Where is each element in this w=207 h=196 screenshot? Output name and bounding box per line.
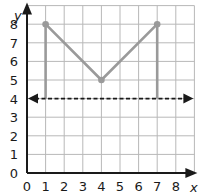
x-axis-label: x — [189, 180, 198, 195]
y-axis-label: y — [13, 8, 22, 23]
y-tick-label: 4 — [10, 92, 18, 107]
axes — [22, 3, 197, 178]
y-tick-label: 5 — [10, 73, 18, 88]
y-tick-label: 6 — [10, 54, 18, 69]
y-tick-label: 1 — [10, 147, 18, 162]
y-tick-label: 7 — [10, 36, 18, 51]
arrow-right-icon — [183, 94, 193, 104]
tick-labels: 012345678012345678 — [10, 17, 180, 194]
y-tick-label: 0 — [10, 166, 18, 181]
x-tick-label: 7 — [153, 179, 161, 194]
data-point — [98, 77, 105, 84]
x-tick-label: 4 — [97, 179, 105, 194]
x-tick-label: 6 — [134, 179, 142, 194]
graph-series — [28, 21, 193, 104]
x-tick-label: 2 — [60, 179, 68, 194]
coordinate-plane: 012345678012345678 x y — [0, 0, 207, 196]
x-axis-arrow-icon — [185, 168, 197, 178]
y-axis-arrow-icon — [22, 3, 32, 15]
y-tick-label: 2 — [10, 129, 18, 144]
x-tick-label: 0 — [23, 179, 31, 194]
x-tick-label: 1 — [41, 179, 49, 194]
x-tick-label: 8 — [172, 179, 180, 194]
y-tick-label: 3 — [10, 110, 18, 125]
arrow-left-icon — [28, 94, 38, 104]
x-tick-label: 5 — [116, 179, 124, 194]
x-tick-label: 3 — [79, 179, 87, 194]
